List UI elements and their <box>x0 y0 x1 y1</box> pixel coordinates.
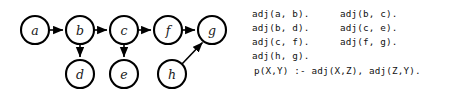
graph-node-h[interactable]: h <box>158 60 186 88</box>
graph-node-d[interactable]: d <box>66 60 94 88</box>
node-label-e: e <box>120 67 127 82</box>
node-label-h: h <box>168 67 176 82</box>
code-fact-adj-c-e: adj(c, e). <box>340 22 397 33</box>
node-label-a: a <box>31 23 38 38</box>
node-label-g: g <box>208 23 216 38</box>
node-label-d: d <box>76 67 84 82</box>
code-fact-adj-b-d: adj(b, d). <box>252 22 309 33</box>
edge-h-to-g <box>182 43 203 65</box>
code-fact-adj-f-g: adj(f, g). <box>340 36 397 47</box>
prolog-code-block: adj(a, b). adj(b, c). adj(b, d). adj(c, … <box>243 0 454 97</box>
figure-root: a b c f g d e <box>0 0 454 97</box>
graph-node-c[interactable]: c <box>110 16 138 44</box>
directed-graph-diagram: a b c f g d e <box>0 0 235 97</box>
graph-node-b[interactable]: b <box>66 16 94 44</box>
graph-node-a[interactable]: a <box>21 16 49 44</box>
node-label-c: c <box>120 23 127 38</box>
graph-node-f[interactable]: f <box>154 16 182 44</box>
node-label-b: b <box>76 23 84 38</box>
code-fact-adj-h-g: adj(h, g). <box>252 50 309 61</box>
code-fact-adj-c-f: adj(c, f). <box>252 36 309 47</box>
code-rule-path: p(X,Y) :- adj(X,Z), adj(Z,Y). <box>254 65 421 76</box>
graph-canvas: a b c f g d e <box>0 0 235 97</box>
graph-node-g[interactable]: g <box>198 16 226 44</box>
graph-node-e[interactable]: e <box>110 60 138 88</box>
code-fact-adj-b-c: adj(b, c). <box>340 8 397 19</box>
code-fact-adj-a-b: adj(a, b). <box>252 8 309 19</box>
